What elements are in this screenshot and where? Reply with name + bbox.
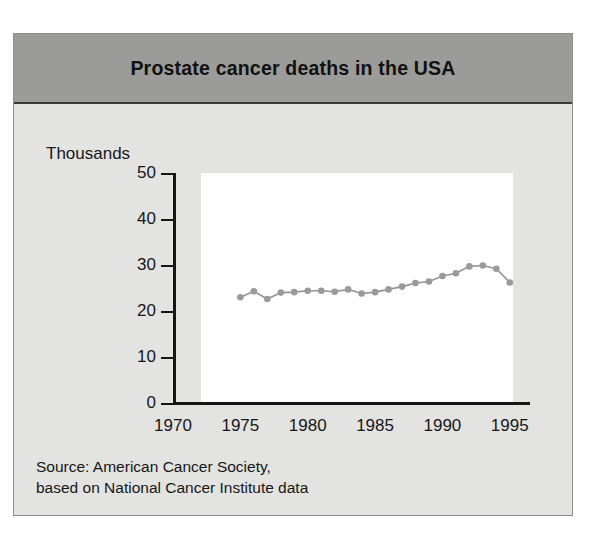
x-tick-label: 1995 — [491, 416, 529, 436]
source-line-2: based on National Cancer Institute data — [36, 478, 308, 499]
y-tick-mark — [161, 311, 173, 313]
data-point — [345, 286, 352, 293]
page-title: Prostate cancer deaths in the USA — [130, 57, 455, 80]
y-tick-label: 30 — [137, 255, 156, 275]
data-point — [277, 289, 284, 296]
y-tick-label: 40 — [137, 209, 156, 229]
chart-figure: Prostate cancer deaths in the USA Thousa… — [13, 33, 573, 516]
data-point — [385, 286, 392, 293]
data-point — [439, 273, 446, 280]
y-tick-mark — [161, 357, 173, 359]
data-point — [426, 278, 433, 285]
y-tick-mark — [161, 403, 173, 405]
data-point — [480, 262, 487, 269]
y-tick-mark — [161, 173, 173, 175]
data-point — [331, 288, 338, 295]
chart-body: Thousands 01020304050 197019751980198519… — [14, 104, 572, 517]
x-tick-label: 1975 — [221, 416, 259, 436]
x-tick-label: 1985 — [356, 416, 394, 436]
data-point — [318, 287, 325, 294]
y-axis-unit-label: Thousands — [46, 144, 130, 164]
data-point — [399, 283, 406, 290]
y-tick-label: 20 — [137, 301, 156, 321]
data-point — [506, 279, 513, 286]
plot-area: 01020304050 197019751980198519901995 — [173, 173, 513, 403]
data-point — [453, 270, 460, 277]
y-tick-label: 50 — [137, 163, 156, 183]
data-point — [493, 265, 500, 272]
data-point — [251, 288, 258, 295]
x-tick-label: 1970 — [154, 416, 192, 436]
data-point — [372, 289, 379, 296]
series-markers — [237, 262, 513, 302]
y-tick-mark — [161, 219, 173, 221]
source-line-1: Source: American Cancer Society, — [36, 458, 271, 475]
data-point — [466, 263, 473, 270]
y-tick-label: 0 — [147, 393, 156, 413]
x-tick-label: 1980 — [289, 416, 327, 436]
chart-header-band: Prostate cancer deaths in the USA — [14, 34, 572, 104]
y-tick-mark — [161, 265, 173, 267]
data-point — [412, 280, 419, 287]
data-point — [304, 287, 311, 294]
data-point — [291, 289, 298, 296]
data-series — [173, 173, 530, 405]
data-point — [237, 294, 244, 301]
data-point — [264, 296, 271, 303]
x-tick-label: 1990 — [424, 416, 462, 436]
y-tick-label: 10 — [137, 347, 156, 367]
data-point — [358, 290, 365, 297]
source-note: Source: American Cancer Society, based o… — [36, 457, 308, 499]
